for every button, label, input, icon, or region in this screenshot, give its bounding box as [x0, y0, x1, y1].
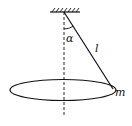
ceiling-support — [50, 8, 80, 12]
mass-label: m — [115, 86, 125, 99]
diagram-canvas: α l m — [0, 0, 132, 126]
angle-label: α — [66, 32, 74, 45]
circular-orbit-path — [10, 80, 116, 101]
angle-arc — [64, 26, 73, 29]
pendulum-string — [64, 12, 113, 89]
conical-pendulum-diagram: α l m — [0, 0, 132, 126]
length-label: l — [95, 42, 99, 55]
